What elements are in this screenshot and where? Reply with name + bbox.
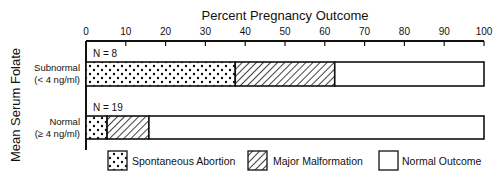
category-label: Normal (49, 116, 80, 127)
stacked-bar-chart: Percent Pregnancy Outcome Mean Serum Fol… (0, 0, 500, 184)
chart-title: Percent Pregnancy Outcome (202, 8, 369, 23)
legend-item: Spontaneous Abortion (108, 151, 235, 170)
bar-segment-spontaneous-abortion (86, 62, 235, 86)
x-tick-label: 90 (439, 26, 451, 37)
bars: N = 8Subnormal(< 4 ng/ml)N = 19Normal(≥ … (34, 48, 484, 139)
legend-item: Normal Outcome (379, 151, 482, 170)
legend-label: Normal Outcome (402, 155, 482, 167)
bar-segment-spontaneous-abortion (86, 116, 107, 139)
category-sublabel: (< 4 ng/ml) (34, 74, 80, 85)
bar-segment-normal-outcome (149, 116, 484, 139)
legend-swatch-hatch (248, 151, 267, 170)
x-tick-label: 70 (359, 26, 371, 37)
x-tick-label: 10 (120, 26, 132, 37)
n-label: N = 8 (93, 48, 118, 59)
bar-row-subnormal: N = 8Subnormal(< 4 ng/ml) (34, 48, 484, 86)
category-sublabel: (≥ 4 ng/ml) (35, 128, 80, 139)
legend-swatch-dots (108, 151, 127, 170)
x-tick-label: 100 (476, 26, 493, 37)
x-tick-label: 30 (200, 26, 212, 37)
bar-row-normal: N = 19Normal(≥ 4 ng/ml) (35, 102, 484, 139)
x-tick-label: 80 (399, 26, 411, 37)
category-label: Subnormal (34, 62, 80, 73)
legend-item: Major Malformation (248, 151, 363, 170)
legend-swatch-blank (379, 151, 398, 170)
legend-label: Spontaneous Abortion (132, 155, 235, 167)
bar-segment-major-malformation (235, 62, 335, 86)
bar-segment-major-malformation (107, 116, 149, 139)
legend: Spontaneous AbortionMajor MalformationNo… (108, 151, 482, 170)
n-label: N = 19 (93, 102, 123, 113)
y-axis-label: Mean Serum Folate (8, 48, 23, 162)
x-tick-label: 50 (279, 26, 291, 37)
x-tick-label: 40 (240, 26, 252, 37)
x-tick-label: 20 (160, 26, 172, 37)
x-tick-label: 60 (319, 26, 331, 37)
x-tick-label: 0 (83, 26, 89, 37)
bar-segment-normal-outcome (335, 62, 484, 86)
legend-label: Major Malformation (273, 155, 363, 167)
